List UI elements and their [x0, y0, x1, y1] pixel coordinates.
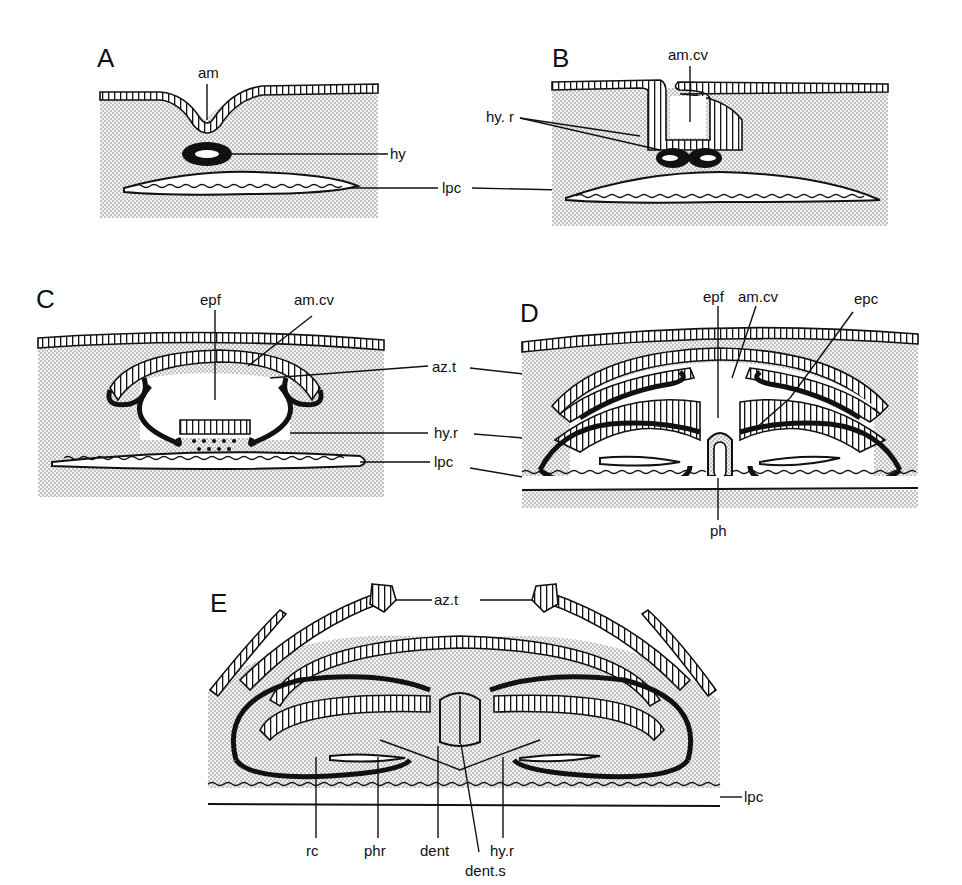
- label-hy: hy: [390, 145, 406, 162]
- label-epf-c: epf: [200, 291, 222, 308]
- label-dents: dent.s: [465, 862, 506, 879]
- panel-b: B am.cv hy. r: [486, 43, 888, 226]
- panel-label-b: B: [552, 43, 569, 73]
- panel-d: D epf am.cv epc ph: [520, 288, 918, 539]
- label-hyr-cd: hy.r: [434, 424, 458, 441]
- label-am: am: [198, 64, 219, 81]
- label-amcv-d: am.cv: [738, 288, 779, 305]
- panel-label-a: A: [97, 43, 115, 73]
- panel-label-d: D: [520, 298, 539, 328]
- label-hyr-b: hy. r: [486, 108, 514, 125]
- label-azt-e: az.t: [434, 591, 459, 608]
- label-phr: phr: [364, 842, 386, 859]
- label-amcv-b: am.cv: [668, 46, 709, 63]
- panel-label-c: C: [36, 284, 55, 314]
- label-ph: ph: [710, 522, 727, 539]
- label-epf-d: epf: [703, 288, 725, 305]
- label-rc: rc: [306, 842, 319, 859]
- label-dent: dent: [420, 842, 450, 859]
- panel-label-e: E: [210, 588, 227, 618]
- panel-a: A am hy lpc: [97, 43, 562, 218]
- label-lpc-cd: lpc: [434, 453, 454, 470]
- label-lpc: lpc: [442, 179, 462, 196]
- embryology-diagram: A am hy lpc B am.cv hy. r C: [0, 0, 962, 885]
- label-epc: epc: [854, 290, 879, 307]
- label-lpc-e: lpc: [744, 788, 764, 805]
- label-amcv-c: am.cv: [294, 291, 335, 308]
- panel-e: E az.t lpc rc phr: [208, 584, 764, 879]
- label-hyr-e: hy.r: [490, 842, 514, 859]
- label-azt-cd: az.t: [432, 358, 457, 375]
